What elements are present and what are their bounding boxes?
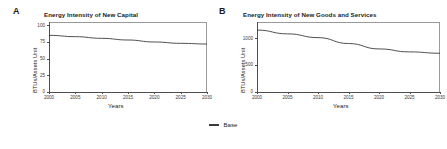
chart-legend: Base [0, 122, 447, 128]
panel-b: B Energy Intensity of New Goods and Serv… [215, 0, 447, 118]
figure-container: A Energy Intensity of New Capital BTUs/A… [0, 0, 447, 149]
panel-a: A Energy Intensity of New Capital BTUs/A… [0, 0, 215, 118]
series-line-b [215, 0, 447, 118]
series-path-base [49, 35, 207, 44]
series-path-base [257, 30, 440, 53]
legend-label-base: Base [223, 122, 237, 128]
series-line-a [0, 0, 215, 118]
legend-line-swatch-base [209, 124, 219, 125]
